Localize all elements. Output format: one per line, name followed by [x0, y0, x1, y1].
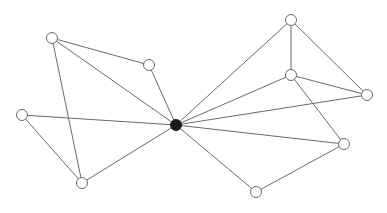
- hub-node: [171, 120, 182, 131]
- edge-H-hub: [176, 125, 344, 144]
- edge-A-D: [52, 38, 82, 183]
- node-C: [17, 110, 28, 121]
- edge-F-G: [291, 75, 367, 95]
- edge-E-G: [291, 20, 367, 95]
- network-graph: [0, 0, 387, 213]
- edge-A-B: [52, 38, 149, 65]
- edge-F-H: [291, 75, 344, 144]
- node-G: [362, 90, 373, 101]
- edge-I-hub: [176, 125, 256, 192]
- node-A: [47, 33, 58, 44]
- node-E: [286, 15, 297, 26]
- edges-layer: [22, 20, 367, 192]
- edge-C-hub: [22, 115, 176, 125]
- edge-A-hub: [52, 38, 176, 125]
- nodes-layer: [17, 15, 373, 198]
- edge-D-hub: [82, 125, 176, 183]
- node-I: [251, 187, 262, 198]
- node-D: [77, 178, 88, 189]
- node-F: [286, 70, 297, 81]
- node-B: [144, 60, 155, 71]
- edge-H-I: [256, 144, 344, 192]
- edge-F-hub: [176, 75, 291, 125]
- node-H: [339, 139, 350, 150]
- edge-C-D: [22, 115, 82, 183]
